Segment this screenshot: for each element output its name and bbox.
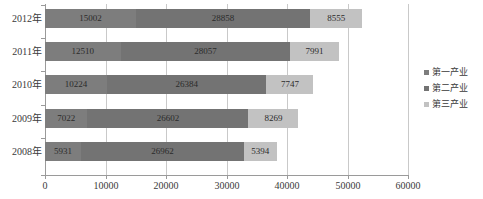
x-axis-label: 20000 xyxy=(154,181,179,191)
bar-segment: 15002 xyxy=(45,9,136,28)
x-axis-label: 30000 xyxy=(215,181,240,191)
bar-data-label: 26384 xyxy=(175,80,198,89)
y-axis-tick xyxy=(41,105,45,106)
x-axis-tick xyxy=(166,175,167,179)
y-axis-tick xyxy=(41,175,45,176)
legend-swatch-icon xyxy=(424,102,429,107)
legend-label: 第二产业 xyxy=(432,84,468,93)
x-axis-label: 10000 xyxy=(94,181,119,191)
bar-data-label: 5394 xyxy=(251,147,269,156)
x-axis-tick xyxy=(408,175,409,179)
bar-data-label: 7991 xyxy=(306,47,324,56)
x-axis-label: 50000 xyxy=(336,181,361,191)
bar-segment: 8269 xyxy=(248,109,298,128)
bar-segment: 5394 xyxy=(244,142,277,161)
bar-data-label: 26962 xyxy=(151,147,174,156)
bar-segment: 26384 xyxy=(107,75,267,94)
category-label: 2008年 xyxy=(12,147,42,157)
category-label: 2011年 xyxy=(12,47,42,57)
x-axis-tick xyxy=(106,175,107,179)
legend: 第一产业第二产业第三产业 xyxy=(424,64,483,112)
bar-segment: 12510 xyxy=(45,42,121,61)
gridline xyxy=(348,4,349,175)
category-label: 2012年 xyxy=(12,14,42,24)
bar-segment: 10224 xyxy=(45,75,107,94)
bar-data-label: 8555 xyxy=(327,14,345,23)
bar-segment: 7022 xyxy=(45,109,87,128)
y-axis-tick xyxy=(41,5,45,6)
y-axis-tick xyxy=(41,38,45,39)
bar-data-label: 10224 xyxy=(65,80,88,89)
bar-segment: 7747 xyxy=(266,75,313,94)
y-axis-tick xyxy=(41,71,45,72)
x-axis-label: 0 xyxy=(43,181,48,191)
x-axis-tick xyxy=(287,175,288,179)
legend-swatch-icon xyxy=(424,86,429,91)
legend-label: 第三产业 xyxy=(432,100,468,109)
bar-data-label: 7022 xyxy=(57,114,75,123)
bar-data-label: 28858 xyxy=(212,14,235,23)
x-axis-tick xyxy=(227,175,228,179)
bar-segment: 28858 xyxy=(136,9,311,28)
bar-data-label: 8269 xyxy=(264,114,282,123)
legend-item-2[interactable]: 第二产业 xyxy=(424,80,483,96)
legend-swatch-icon xyxy=(424,70,429,75)
bar-segment: 7991 xyxy=(290,42,338,61)
bar-segment: 8555 xyxy=(310,9,362,28)
x-axis-label: 60000 xyxy=(396,181,421,191)
x-axis-tick xyxy=(348,175,349,179)
legend-item-1[interactable]: 第一产业 xyxy=(424,64,483,80)
gridline xyxy=(408,4,409,175)
bar-segment: 28057 xyxy=(121,42,291,61)
stacked-bar-chart: 1500228858855512510280577991102242638477… xyxy=(0,0,483,199)
bar-data-label: 7747 xyxy=(281,80,299,89)
bar-data-label: 26602 xyxy=(157,114,180,123)
bar-segment: 26962 xyxy=(81,142,244,161)
legend-label: 第一产业 xyxy=(432,68,468,77)
bar-data-label: 15002 xyxy=(79,14,102,23)
category-label: 2009年 xyxy=(12,114,42,124)
bar-data-label: 12510 xyxy=(72,47,95,56)
category-label: 2010年 xyxy=(12,80,42,90)
bar-segment: 5931 xyxy=(45,142,81,161)
x-axis-label: 40000 xyxy=(275,181,300,191)
bar-data-label: 5931 xyxy=(54,147,72,156)
legend-item-3[interactable]: 第三产业 xyxy=(424,96,483,112)
y-axis-tick xyxy=(41,138,45,139)
bar-segment: 26602 xyxy=(87,109,248,128)
bar-data-label: 28057 xyxy=(194,47,217,56)
x-axis-tick xyxy=(45,175,46,179)
